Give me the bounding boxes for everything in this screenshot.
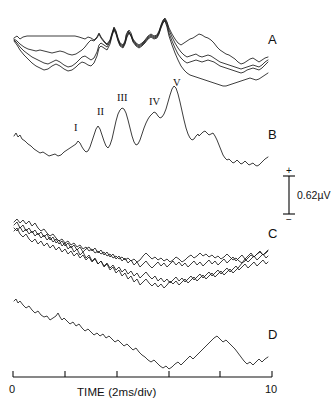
trace-c-rep-4 xyxy=(14,222,268,288)
peak-label-iv: IV xyxy=(149,96,160,107)
axis-min-label: 0 xyxy=(9,383,15,395)
trace-group-b xyxy=(14,86,268,166)
scale-bar-value-label: 0.62µV xyxy=(297,189,331,201)
axis-max-label: 10 xyxy=(265,383,277,395)
peak-label-iii: III xyxy=(117,92,128,103)
trace-b-average xyxy=(14,86,268,166)
peak-label-v: V xyxy=(173,77,181,88)
trace-group-d xyxy=(14,299,268,369)
trace-c-rep-2 xyxy=(14,227,268,268)
scale-bar-positive-sign: + xyxy=(286,166,292,176)
trace-label-c: C xyxy=(268,227,278,240)
trace-group-c xyxy=(14,219,268,288)
trace-group-a xyxy=(14,18,268,86)
axis-title: TIME (2ms/div) xyxy=(77,386,156,398)
scale-bar-negative-sign: − xyxy=(286,215,292,225)
trace-label-d: D xyxy=(268,328,278,341)
peak-label-i: I xyxy=(74,122,78,133)
amplitude-scale-bar xyxy=(283,176,295,214)
peak-label-ii: II xyxy=(97,106,104,117)
trace-label-b: B xyxy=(268,128,277,141)
trace-label-a: A xyxy=(268,33,277,46)
waveform-figure: A B C D I II III IV V + − 0.62µV 0 10 TI… xyxy=(0,0,335,406)
time-axis xyxy=(13,371,272,377)
waveform-canvas xyxy=(0,0,335,406)
trace-a-rep-4 xyxy=(14,21,268,86)
trace-d-average xyxy=(14,299,268,369)
trace-c-rep-3 xyxy=(14,228,268,283)
trace-a-rep-1 xyxy=(14,18,268,64)
